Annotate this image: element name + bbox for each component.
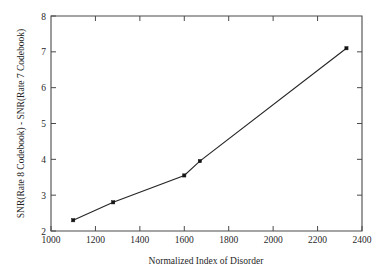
x-tick-label: 2000 <box>264 235 283 245</box>
y-tick-label: 2 <box>41 227 46 237</box>
x-tick-label: 2200 <box>308 235 327 245</box>
y-tick-label: 8 <box>41 12 46 22</box>
line-chart-svg: 1000 1200 1400 1600 1800 2000 2200 2400 … <box>0 0 385 276</box>
x-tick-label: 1400 <box>130 235 149 245</box>
x-tick-label: 1600 <box>175 235 194 245</box>
data-point-marker <box>112 201 115 204</box>
data-point-marker <box>72 219 75 222</box>
x-axis-title: Normalized Index of Disorder <box>149 256 265 266</box>
x-tick-label: 1200 <box>86 235 105 245</box>
y-tick-label: 7 <box>41 47 46 57</box>
data-point-marker <box>345 47 348 50</box>
y-tick-label: 3 <box>41 191 46 201</box>
chart-figure: 1000 1200 1400 1600 1800 2000 2200 2400 … <box>0 0 385 276</box>
y-tick-label: 5 <box>41 119 46 129</box>
data-point-marker <box>183 174 186 177</box>
data-point-marker <box>198 160 201 163</box>
y-axis-title: SNR(Rate 8 Codebook) - SNR(Rate 7 Codebo… <box>16 29 27 218</box>
y-tick-label: 4 <box>41 155 46 165</box>
y-tick-label: 6 <box>41 83 46 93</box>
x-tick-label: 1000 <box>42 235 61 245</box>
x-tick-label: 2400 <box>353 235 372 245</box>
x-tick-label: 1800 <box>219 235 238 245</box>
